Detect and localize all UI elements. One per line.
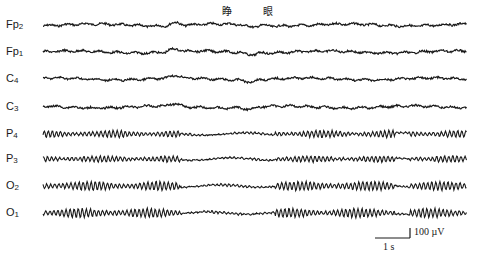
channel-label-main: O xyxy=(6,206,15,218)
trace-c3 xyxy=(43,103,467,110)
trace-o2 xyxy=(43,181,467,190)
trace-fp1 xyxy=(43,48,467,56)
eeg-chart xyxy=(0,0,479,257)
channel-label-sub: 3 xyxy=(13,156,17,165)
scale-amplitude-label: 100 µV xyxy=(414,226,444,237)
eyes-open-marker: 睁 眼 xyxy=(222,3,287,18)
channel-label-sub: 3 xyxy=(14,104,18,113)
channel-label-fp1: Fp1 xyxy=(6,46,23,59)
channel-label-o2: O2 xyxy=(6,180,19,193)
trace-o1 xyxy=(43,208,467,218)
channel-label-main: C xyxy=(6,72,14,84)
channel-label-main: Fp xyxy=(6,18,19,30)
channel-label-sub: 2 xyxy=(19,22,23,31)
channel-label-sub: 4 xyxy=(13,131,17,140)
channel-label-main: C xyxy=(6,100,14,112)
channel-label-c3: C3 xyxy=(6,101,18,114)
channel-label-p4: P4 xyxy=(6,128,18,141)
channel-label-sub: 1 xyxy=(19,49,23,58)
channel-label-fp2: Fp2 xyxy=(6,19,23,32)
channel-label-main: O xyxy=(6,179,15,191)
channel-label-main: Fp xyxy=(6,45,19,57)
channel-label-p3: P3 xyxy=(6,153,18,166)
scale-bar xyxy=(375,228,410,238)
trace-c4 xyxy=(43,75,467,83)
scale-time-label: 1 s xyxy=(383,241,394,252)
channel-label-c4: C4 xyxy=(6,73,18,86)
trace-p4 xyxy=(43,130,467,138)
channel-label-sub: 4 xyxy=(14,76,18,85)
channel-label-sub: 2 xyxy=(15,183,19,192)
eeg-traces xyxy=(43,22,467,218)
trace-p3 xyxy=(43,156,467,163)
channel-label-o1: O1 xyxy=(6,207,19,220)
trace-fp2 xyxy=(43,22,467,28)
channel-label-sub: 1 xyxy=(15,210,19,219)
